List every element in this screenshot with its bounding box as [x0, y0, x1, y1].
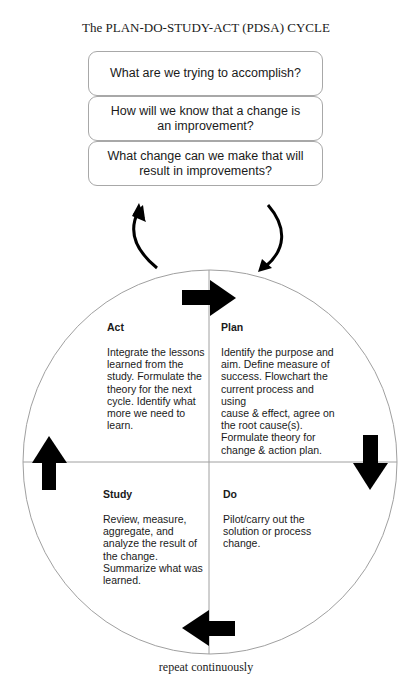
arrow-up-icon: [32, 436, 67, 490]
arrow-left-icon: [182, 610, 235, 646]
footer-caption: repeat continuously: [0, 660, 412, 675]
quadrant-body: Identify the purpose and aim. Define mea…: [221, 346, 341, 456]
quadrant-plan: Plan Identify the purpose and aim. Defin…: [221, 321, 341, 456]
curved-arrow-down-icon: [258, 205, 282, 272]
curved-arrow-up-icon: [132, 203, 157, 268]
quadrant-study: Study Review, measure, aggregate, and an…: [103, 488, 203, 586]
quadrant-do: Do Pilot/carry out the solution or proce…: [223, 488, 323, 550]
quadrant-title: Do: [223, 488, 323, 500]
quadrant-body: Integrate the lessons learned from the s…: [107, 346, 207, 431]
quadrant-title: Study: [103, 488, 203, 500]
quadrant-title: Plan: [221, 321, 341, 333]
quadrant-act: Act Integrate the lessons learned from t…: [107, 321, 207, 431]
quadrant-title: Act: [107, 321, 207, 333]
quadrant-body: Review, measure, aggregate, and analyze …: [103, 513, 203, 586]
quadrant-body: Pilot/carry out the solution or process …: [223, 513, 323, 550]
